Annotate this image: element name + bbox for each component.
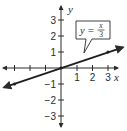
y-tick-label-3: 3 (50, 15, 56, 26)
y-tick-label-neg1: −1 (45, 79, 57, 90)
y-tick-label-neg3: −3 (45, 111, 57, 122)
equation-numerator: x (98, 21, 103, 30)
y-tick-label-1: 1 (50, 47, 56, 58)
point-3-1 (106, 50, 109, 53)
x-tick-label-3: 3 (105, 72, 111, 83)
x-tick-label-2: 2 (90, 72, 96, 83)
point-origin (59, 66, 62, 69)
x-axis-label: x (113, 71, 119, 83)
y-tick-label-neg2: −2 (45, 95, 57, 106)
equation-lhs: y = (79, 25, 94, 36)
point-neg3-neg1 (13, 82, 16, 85)
y-axis-label: y (67, 3, 73, 15)
x-tick-label-1: 1 (74, 72, 80, 83)
coordinate-plane: 1 2 3 x 3 2 1 −1 −2 −3 y y = x 3 (0, 0, 127, 131)
y-tick-label-2: 2 (50, 31, 56, 42)
equation-denominator: 3 (99, 30, 103, 39)
